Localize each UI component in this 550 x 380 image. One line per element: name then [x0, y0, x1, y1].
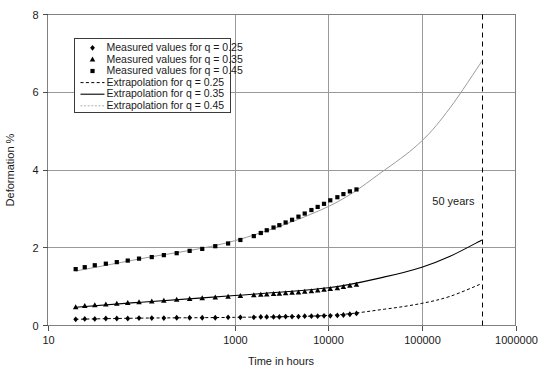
legend-label: Extrapolation for q = 0.35: [107, 87, 225, 99]
data-point-marker: [150, 255, 154, 259]
data-point-marker: [341, 312, 346, 318]
data-point-marker: [162, 253, 166, 257]
data-point-marker: [296, 215, 300, 219]
data-point-marker: [303, 211, 307, 215]
data-point-marker: [277, 291, 283, 296]
y-tick-label: 6: [32, 86, 38, 98]
series-markers: [73, 282, 359, 310]
y-tick-label: 4: [32, 164, 38, 176]
data-point-marker: [104, 262, 108, 266]
series-markers: [74, 187, 359, 271]
data-point-marker: [115, 260, 119, 264]
data-point-marker: [271, 291, 277, 296]
x-tick-label: 1000: [223, 334, 247, 346]
data-point-marker: [175, 251, 179, 255]
data-point-marker: [322, 313, 327, 319]
data-point-marker: [238, 238, 242, 242]
data-point-marker: [213, 315, 218, 321]
legend-label: Measured values for q = 0.25: [107, 41, 243, 53]
y-tick-label: 0: [32, 320, 38, 332]
data-point-marker: [92, 316, 97, 322]
data-point-marker: [284, 220, 288, 224]
data-point-marker: [315, 313, 320, 319]
data-point-marker: [149, 315, 154, 321]
data-point-marker: [354, 187, 358, 191]
data-point-marker: [277, 314, 282, 320]
data-point-marker: [161, 315, 166, 321]
data-point-marker: [321, 287, 327, 292]
data-point-marker: [137, 315, 142, 321]
data-point-marker: [290, 218, 294, 222]
data-point-marker: [200, 247, 204, 251]
data-point-marker: [125, 316, 130, 322]
data-point-marker: [309, 208, 313, 212]
data-point-marker: [348, 189, 352, 193]
legend-label: Extrapolation for q = 0.45: [107, 99, 225, 111]
data-point-marker: [258, 314, 263, 320]
data-point-marker: [316, 205, 320, 209]
data-point-marker: [126, 258, 130, 262]
data-point-marker: [354, 311, 359, 317]
x-tick-label: 1000000: [495, 334, 538, 346]
x-axis-title: Time in hours: [248, 355, 315, 367]
data-point-marker: [213, 244, 217, 248]
data-point-marker: [93, 263, 97, 267]
data-point-marker: [187, 315, 192, 321]
data-point-marker: [283, 314, 288, 320]
data-point-marker: [264, 314, 269, 320]
y-tick-label: 2: [32, 242, 38, 254]
data-point-marker: [259, 231, 263, 235]
data-point-marker: [200, 315, 205, 321]
data-point-marker: [226, 241, 230, 245]
data-point-marker: [296, 314, 301, 320]
x-tick-label: 10: [42, 334, 54, 346]
data-point-marker: [92, 302, 98, 307]
data-point-marker: [73, 316, 78, 322]
data-point-marker: [103, 302, 109, 307]
x-tick-label: 100000: [404, 334, 441, 346]
annotation-label-50-years: 50 years: [432, 195, 475, 207]
series-markers: [73, 311, 359, 323]
data-point-marker: [226, 314, 231, 320]
data-point-marker: [309, 313, 314, 319]
y-tick-label: 8: [32, 9, 38, 21]
chart-legend: Measured values for q = 0.25Measured val…: [75, 39, 243, 113]
data-point-marker: [341, 192, 345, 196]
data-point-marker: [114, 316, 119, 322]
data-point-marker: [265, 228, 269, 232]
legend-label: Measured values for q = 0.35: [107, 53, 243, 65]
data-point-marker: [103, 316, 108, 322]
data-point-marker: [322, 202, 326, 206]
data-point-marker: [271, 225, 275, 229]
data-point-marker: [238, 314, 243, 320]
data-point-marker: [174, 315, 179, 321]
data-point-marker: [251, 314, 256, 320]
data-point-marker: [328, 198, 332, 202]
data-point-marker: [271, 314, 276, 320]
data-point-marker: [290, 314, 295, 320]
data-point-marker: [302, 313, 307, 319]
data-point-marker: [74, 267, 78, 271]
data-point-marker: [335, 195, 339, 199]
legend-square-marker: [90, 69, 94, 73]
data-point-marker: [82, 316, 87, 322]
series-line: [76, 284, 482, 320]
data-point-marker: [302, 289, 308, 294]
chart-container: 02468101000100001000001000000 50 years M…: [0, 0, 550, 380]
data-point-marker: [283, 290, 289, 295]
data-point-marker: [114, 301, 120, 306]
data-point-marker: [335, 312, 340, 318]
data-point-marker: [188, 249, 192, 253]
y-axis-title: Deformation %: [4, 133, 16, 206]
data-point-marker: [82, 303, 88, 308]
deformation-vs-time-chart: 02468101000100001000001000000 50 years M…: [0, 0, 550, 380]
data-point-marker: [264, 291, 270, 296]
data-point-marker: [252, 234, 256, 238]
data-point-marker: [83, 265, 87, 269]
legend-label: Measured values for q = 0.45: [107, 64, 243, 76]
legend-label: Extrapolation for q = 0.25: [107, 76, 225, 88]
x-tick-label: 10000: [313, 334, 344, 346]
data-point-marker: [277, 223, 281, 227]
data-point-marker: [347, 311, 352, 317]
data-point-marker: [137, 257, 141, 261]
